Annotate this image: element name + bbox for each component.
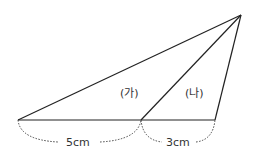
dividing-line [141,15,241,120]
measure-label-3cm: 3cm [166,137,190,148]
triangle-outline [18,15,241,120]
region-label-na: (나) [185,88,204,99]
left-side [18,15,241,120]
brace-5cm-right [100,120,141,142]
brace-3cm-right [196,120,215,142]
brace-5cm-left [18,120,58,142]
measure-label-5cm: 5cm [66,137,90,148]
triangle-diagram [0,0,255,157]
brace-3cm-left [141,120,162,142]
right-side [215,15,241,120]
region-label-ga: (가) [120,88,139,99]
